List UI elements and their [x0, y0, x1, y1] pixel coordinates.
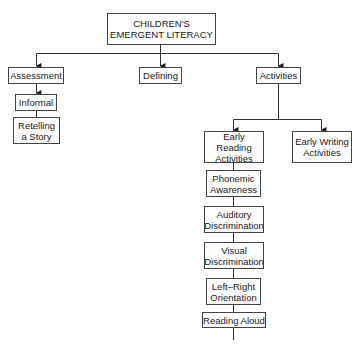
connector-lines	[0, 0, 361, 346]
node-informal: Informal	[15, 94, 57, 111]
node-visual-discrimination: Visual Discrimination	[204, 242, 264, 269]
node-left-right-orientation: Left–Right Orientation	[206, 278, 261, 305]
node-activities: Activities	[256, 67, 301, 84]
root-node: CHILDREN'S EMERGENT LITERACY	[107, 13, 216, 45]
node-reading-aloud: Reading Aloud	[202, 312, 266, 328]
node-early-reading-activities: Early Reading Activities	[204, 131, 264, 163]
node-retelling-a-story: Retelling a Story	[13, 117, 60, 144]
node-phonemic-awareness: Phonemic Awareness	[206, 170, 261, 197]
node-auditory-discrimination: Auditory Discrimination	[204, 206, 264, 233]
node-early-writing-activities: Early Writing Activities	[292, 131, 352, 163]
root-label: CHILDREN'S EMERGENT LITERACY	[110, 18, 213, 40]
node-assessment: Assessment	[8, 67, 64, 84]
node-defining: Defining	[139, 67, 182, 84]
